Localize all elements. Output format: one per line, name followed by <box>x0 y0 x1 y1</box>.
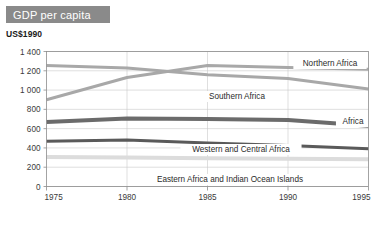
series-annotation-label: Northern Africa <box>303 59 358 68</box>
series-annotation-label: Eastern Africa and Indian Ocean Islands <box>157 175 303 184</box>
x-axis-tick-labels: 19751980198519901995 <box>45 193 371 202</box>
y-tick-label: 1 400 <box>20 48 41 57</box>
x-tick-label: 1985 <box>198 193 217 202</box>
y-tick-label: 200 <box>27 163 41 172</box>
x-tick-label: 1980 <box>118 193 137 202</box>
line-chart: 02004006008001 0001 2001 400 19751980198… <box>0 0 380 228</box>
y-tick-label: 600 <box>27 125 41 134</box>
x-tick-label: 1975 <box>45 193 64 202</box>
chart-canvas: 02004006008001 0001 2001 400 19751980198… <box>0 0 380 228</box>
y-tick-label: 1 000 <box>20 86 41 95</box>
y-tick-label: 1 200 <box>20 67 41 76</box>
x-tick-label: 1990 <box>279 193 298 202</box>
x-axis-tick-marks <box>47 187 369 191</box>
y-tick-label: 800 <box>27 105 41 114</box>
y-tick-label: 400 <box>27 144 41 153</box>
series-line-eastern-africa-and-indian-ocean-islands <box>47 157 369 159</box>
series-annotation-label: Western and Central Africa <box>192 145 290 154</box>
series-annotation-label: Southern Africa <box>209 92 265 101</box>
chart-page: GDP per capita US$1990 02004006008001 00… <box>0 0 380 228</box>
y-axis-tick-labels: 02004006008001 0001 2001 400 <box>20 48 41 192</box>
series-annotation-label: Africa <box>343 117 364 126</box>
x-tick-label: 1995 <box>352 193 371 202</box>
y-tick-label: 0 <box>36 183 41 192</box>
